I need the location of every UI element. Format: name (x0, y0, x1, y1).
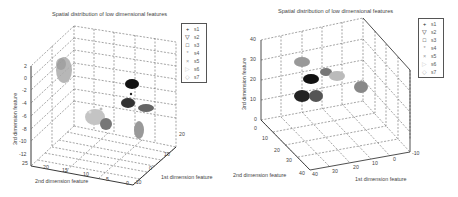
y-tick: 5 (106, 176, 109, 182)
right-y-axis-label: 2nd dimension feature (233, 172, 286, 178)
diamond-marker-icon: ◇ (183, 73, 192, 81)
right-x-axis-label: 1st dimension feature (355, 176, 407, 182)
y-tick: 25 (22, 160, 28, 166)
y-tick: 15 (62, 167, 68, 173)
y-tick: 20 (274, 147, 280, 153)
z-tick: -12 (19, 151, 27, 157)
legend-item-s4: *s4 (420, 44, 442, 52)
right-chart-panel: Spatial distribution of low dimensional … (229, 0, 458, 197)
legend-item-s3: □s3 (183, 41, 205, 49)
z-tick: -10 (19, 138, 27, 144)
left-z-axis-label: 3rd dimension feature (12, 93, 18, 145)
y-tick: 10 (83, 171, 89, 177)
legend-item-s7: ◇s7 (183, 73, 205, 81)
x-tick: 20 (179, 131, 185, 137)
triangle-down-marker-icon: ▽ (183, 33, 192, 41)
left-legend: +s1 ▽s2 □s3 *s4 ×s5 ▷s6 ◇s7 (181, 23, 207, 83)
square-marker-icon: □ (183, 41, 192, 49)
z-tick: -2 (22, 87, 27, 93)
y-tick: 20 (43, 164, 49, 170)
legend-item-s3: □s3 (420, 36, 442, 44)
x-tick: 10 (164, 151, 170, 157)
right-legend: +s1 ▽s2 □s3 *s4 ×s5 ▷s6 ◇s7 (418, 18, 444, 78)
plus-marker-icon: + (183, 25, 192, 33)
x-tick: -10 (134, 179, 142, 185)
legend-item-s4: *s4 (183, 49, 205, 57)
legend-item-s5: ×s5 (183, 57, 205, 65)
y-tick: 40 (299, 170, 305, 176)
legend-item-s5: ×s5 (420, 52, 442, 60)
legend-item-s6: ▷s6 (183, 65, 205, 73)
legend-item-s2: ▽s2 (420, 28, 442, 36)
y-tick: 30 (286, 157, 292, 163)
z-tick: 20 (250, 76, 256, 82)
y-tick: 0 (126, 180, 129, 186)
x-tick: 0 (149, 165, 152, 171)
z-tick: 10 (250, 96, 256, 102)
legend-item-s1: +s1 (183, 25, 205, 33)
x-tick: 0 (393, 156, 396, 162)
left-chart-panel: Spatial distribution of low dimensional … (0, 0, 229, 197)
plus-marker-icon: + (420, 20, 429, 28)
right-clusters (294, 57, 368, 102)
z-tick: -4 (22, 100, 27, 106)
square-marker-icon: □ (420, 36, 429, 44)
z-tick: 0 (254, 116, 257, 122)
x-marker-icon: × (183, 57, 192, 65)
y-tick: 0 (254, 125, 257, 131)
z-tick: 0 (24, 75, 27, 81)
legend-item-s6: ▷s6 (420, 60, 442, 68)
z-tick: 40 (250, 36, 256, 42)
z-tick: 2 (24, 63, 27, 69)
left-clusters (56, 57, 154, 139)
x-tick: 40 (312, 171, 318, 177)
legend-item-s7: ◇s7 (420, 68, 442, 76)
right-chart-title: Spatial distribution of low dimensional … (278, 8, 393, 14)
asterisk-marker-icon: * (420, 44, 429, 52)
diamond-marker-icon: ◇ (420, 68, 429, 76)
triangle-down-marker-icon: ▽ (420, 28, 429, 36)
x-tick: 10 (372, 160, 378, 166)
right-z-axis-label: 3rd dimension feature (241, 58, 247, 110)
left-chart-title: Spatial distribution of low dimensional … (52, 11, 167, 17)
x-tick: 20 (353, 164, 359, 170)
legend-item-s1: +s1 (420, 20, 442, 28)
z-tick: -8 (22, 126, 27, 132)
y-tick: 10 (262, 135, 268, 141)
triangle-right-marker-icon: ▷ (183, 65, 192, 73)
triangle-right-marker-icon: ▷ (420, 60, 429, 68)
left-x-axis-label: 1st dimension feature (161, 174, 213, 180)
z-tick: 30 (250, 56, 256, 62)
x-marker-icon: × (420, 52, 429, 60)
x-tick: -10 (412, 150, 420, 156)
asterisk-marker-icon: * (183, 49, 192, 57)
left-y-axis-label: 2nd dimension feature (35, 178, 88, 184)
legend-item-s2: ▽s2 (183, 33, 205, 41)
x-tick: 30 (332, 168, 338, 174)
z-tick: -6 (22, 113, 27, 119)
